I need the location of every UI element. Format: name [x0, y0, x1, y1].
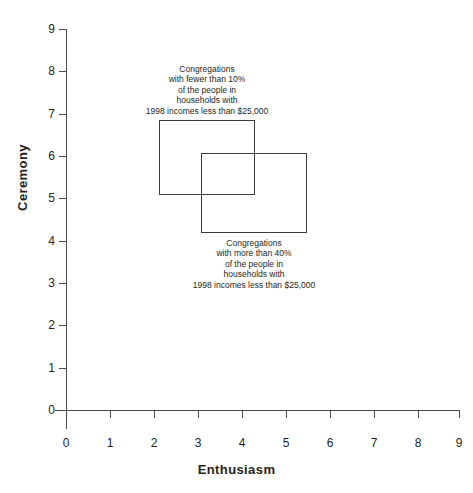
y-tick-label: 5 — [33, 191, 55, 205]
y-tick-label: 6 — [33, 149, 55, 163]
y-tick-label: 0 — [33, 403, 55, 417]
y-tick-label: 4 — [33, 234, 55, 248]
x-tick-label: 9 — [448, 436, 470, 450]
y-tick-label: 9 — [33, 22, 55, 36]
y-tick-mark — [59, 283, 66, 284]
x-tick-label: 0 — [55, 436, 77, 450]
x-tick-mark — [198, 411, 199, 418]
x-tick-label: 7 — [363, 436, 385, 450]
y-tick-mark — [59, 29, 66, 30]
x-tick-label: 2 — [143, 436, 165, 450]
y-tick-mark — [59, 325, 66, 326]
region-label-high-poverty: Congregations with more than 40% of the … — [149, 238, 359, 290]
x-tick-label: 1 — [99, 436, 121, 450]
y-tick-label: 1 — [33, 361, 55, 375]
y-tick-mark — [59, 368, 66, 369]
region-label-low-poverty: Congregations with fewer than 10% of the… — [102, 64, 312, 116]
x-axis-title: Enthusiasm — [0, 462, 473, 477]
y-axis-line — [66, 29, 67, 429]
x-tick-mark — [110, 411, 111, 418]
y-tick-label: 2 — [33, 318, 55, 332]
y-tick-mark — [59, 71, 66, 72]
x-axis-line — [55, 410, 460, 411]
y-tick-label: 7 — [33, 107, 55, 121]
x-tick-label: 4 — [231, 436, 253, 450]
x-tick-mark — [374, 411, 375, 418]
x-tick-mark — [286, 411, 287, 418]
x-tick-label: 5 — [275, 436, 297, 450]
chart-title — [0, 0, 473, 1]
chart-canvas: Ceremony Enthusiasm 9 8 7 6 5 4 3 2 1 0 … — [0, 0, 473, 493]
x-tick-label: 3 — [187, 436, 209, 450]
x-tick-mark — [242, 411, 243, 418]
y-axis-title: Ceremony — [15, 128, 30, 228]
y-tick-mark — [59, 198, 66, 199]
y-tick-mark — [59, 114, 66, 115]
x-tick-mark — [154, 411, 155, 418]
region-box-high-poverty — [201, 153, 307, 233]
y-tick-mark — [59, 241, 66, 242]
y-tick-label: 3 — [33, 276, 55, 290]
x-tick-label: 6 — [319, 436, 341, 450]
y-tick-mark — [59, 156, 66, 157]
y-tick-label: 8 — [33, 64, 55, 78]
x-tick-mark — [459, 411, 460, 418]
x-tick-label: 8 — [407, 436, 429, 450]
x-tick-mark — [66, 404, 67, 417]
x-tick-mark — [418, 411, 419, 418]
x-tick-mark — [330, 411, 331, 418]
